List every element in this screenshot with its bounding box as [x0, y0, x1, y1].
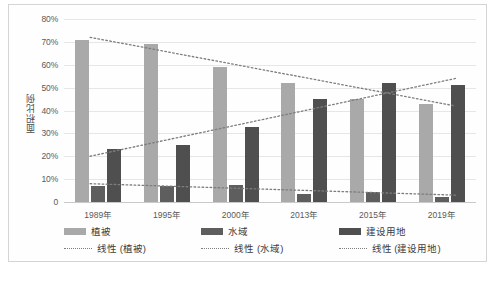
bar-water[interactable]: [297, 194, 311, 202]
bar-veg[interactable]: [75, 40, 89, 202]
legend-swatch-water: [201, 228, 223, 235]
y-axis-tick-label: 30%: [42, 128, 58, 138]
bar-constr[interactable]: [313, 99, 327, 202]
legend-label-trend-water: 线性 (水域): [234, 244, 283, 254]
y-axis-tick-label: 40%: [42, 106, 58, 116]
figure-caption: [0, 270, 495, 281]
legend-item-trend-construction[interactable]: 线性 (建设用地): [339, 244, 476, 254]
chart-legend: 植被 水域 建设用地 线性 (植被) 线性 (水域) 线性 (建设用地: [64, 227, 476, 260]
legend-item-trend-vegetation[interactable]: 线性 (植被): [64, 244, 201, 254]
bar-water[interactable]: [160, 186, 174, 202]
bar-group: [133, 19, 202, 202]
legend-label-water: 水域: [228, 227, 248, 237]
x-axis-tick-label: 2000年: [222, 208, 250, 220]
bar-water[interactable]: [435, 197, 449, 202]
legend-row-trendlines: 线性 (植被) 线性 (水域) 线性 (建设用地): [64, 244, 476, 254]
y-axis-tick-label: 60%: [42, 60, 58, 70]
x-axis-tick-label: 2015年: [359, 208, 387, 220]
x-axis-tick-label: 2019年: [428, 208, 456, 220]
bar-constr[interactable]: [245, 127, 259, 202]
y-axis-tick-label: 80%: [42, 14, 58, 24]
y-axis-tick-label: 70%: [42, 37, 58, 47]
y-axis-tick-label: 10%: [42, 174, 58, 184]
y-axis-tick-label: 20%: [42, 151, 58, 161]
legend-swatch-construction: [339, 228, 361, 235]
bar-veg[interactable]: [144, 44, 158, 202]
bar-constr[interactable]: [176, 145, 190, 202]
bar-group: [407, 19, 476, 202]
legend-dashline-construction: [339, 248, 367, 249]
legend-dashline-vegetation: [64, 248, 92, 249]
x-axis-tick-label: 2013年: [290, 208, 318, 220]
x-axis-tick-label: 1989年: [84, 208, 112, 220]
y-axis-tick-label: 50%: [42, 83, 58, 93]
bar-group: [270, 19, 339, 202]
legend-item-water[interactable]: 水域: [201, 227, 338, 237]
bar-constr[interactable]: [107, 149, 121, 202]
bar-veg[interactable]: [350, 99, 364, 202]
legend-row-series: 植被 水域 建设用地: [64, 227, 476, 237]
bar-group: [339, 19, 408, 202]
legend-item-trend-water[interactable]: 线性 (水域): [201, 244, 338, 254]
bar-constr[interactable]: [451, 85, 465, 202]
gridline-0: [64, 202, 476, 203]
bar-veg[interactable]: [419, 104, 433, 202]
x-axis-tick-label: 1995年: [153, 208, 181, 220]
bar-constr[interactable]: [382, 83, 396, 202]
bar-veg[interactable]: [281, 83, 295, 202]
legend-label-vegetation: 植被: [91, 227, 111, 237]
bar-water[interactable]: [91, 186, 105, 202]
bar-veg[interactable]: [213, 67, 227, 202]
legend-item-vegetation[interactable]: 植被: [64, 227, 201, 237]
y-axis-title: 面积比例: [23, 93, 36, 133]
legend-item-construction[interactable]: 建设用地: [339, 227, 476, 237]
chart-frame: 面积比例 010%20%30%40%50%60%70%80% 1989年1995…: [8, 4, 487, 262]
legend-label-trend-construction: 线性 (建设用地): [372, 244, 441, 254]
y-axis-tick-label: 0: [53, 197, 58, 207]
legend-label-trend-vegetation: 线性 (植被): [97, 244, 146, 254]
bar-water[interactable]: [366, 192, 380, 202]
legend-swatch-vegetation: [64, 228, 86, 235]
bar-water[interactable]: [229, 185, 243, 202]
plot-area: 010%20%30%40%50%60%70%80% 1989年1995年2000…: [64, 19, 476, 202]
bar-group: [201, 19, 270, 202]
bar-group: [64, 19, 133, 202]
legend-dashline-water: [201, 248, 229, 249]
legend-label-construction: 建设用地: [366, 227, 406, 237]
